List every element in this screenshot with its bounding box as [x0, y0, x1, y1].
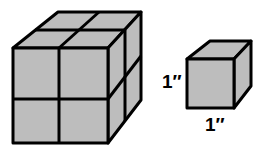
cubes-diagram: 1″ 1″ — [0, 0, 267, 149]
small-cube — [187, 41, 251, 108]
width-label: 1″ — [205, 114, 225, 135]
small-cube-front-face — [187, 59, 234, 108]
height-label: 1″ — [162, 71, 182, 92]
large-cube — [13, 12, 141, 143]
